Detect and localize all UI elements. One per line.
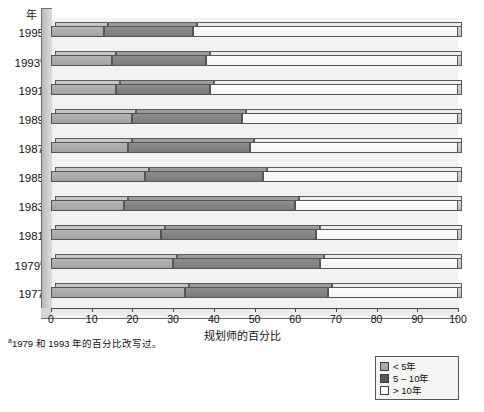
- bar-row: [51, 109, 458, 124]
- bar-row: [51, 196, 458, 211]
- x-axis-tick: [336, 308, 337, 312]
- x-axis-tick: [173, 308, 174, 312]
- bar-end-cap: [457, 229, 462, 240]
- bar-segment: [206, 55, 458, 66]
- bar-end-cap: [457, 171, 462, 182]
- x-axis-tick-label: 90: [411, 313, 423, 325]
- bar-row: [51, 22, 458, 37]
- y-axis-tick-label: 1993a: [15, 56, 45, 69]
- bar-end-cap: [457, 26, 462, 37]
- x-axis-tick-label: 40: [208, 313, 220, 325]
- bar-end-cap: [457, 258, 462, 269]
- bar-segment: [242, 113, 458, 124]
- footnote: a1979 和 1993 年的百分比改写过。: [8, 336, 162, 350]
- x-axis-tick: [92, 308, 93, 312]
- bar-segment: [210, 84, 458, 95]
- legend-item-gt10: > 10年: [380, 384, 454, 396]
- x-axis-tick-label: 60: [289, 313, 301, 325]
- x-axis-tick: [255, 308, 256, 312]
- bar-segment: [173, 258, 320, 269]
- bar-end-cap: [457, 84, 462, 95]
- bar-segment: [295, 200, 458, 211]
- x-axis-tick-label: 10: [86, 313, 98, 325]
- bar-segment: [320, 258, 458, 269]
- bar-row: [51, 138, 458, 153]
- bar-segment: [51, 55, 112, 66]
- bar-end-cap: [457, 200, 462, 211]
- bar-segment: [161, 229, 316, 240]
- x-axis-tick: [377, 308, 378, 312]
- bar-segment: [51, 26, 104, 37]
- bar-segment: [250, 142, 458, 153]
- bar-row: [51, 225, 458, 240]
- x-axis-tick-label: 30: [167, 313, 179, 325]
- bar-segment: [112, 55, 206, 66]
- bar-segment: [51, 113, 132, 124]
- y-axis-tick-label: 1979a: [15, 259, 45, 272]
- bar-segment: [193, 26, 458, 37]
- y-axis-title: 年: [26, 6, 37, 22]
- bar-segment: [51, 287, 185, 298]
- bar-segment: [128, 142, 250, 153]
- stacked-bar-chart: 年 19951993a1991198919871985198319811979a…: [0, 0, 484, 412]
- legend-swatch-icon-lt5: [380, 362, 389, 371]
- bar-segment: [104, 26, 194, 37]
- x-axis-tick-label: 50: [249, 313, 261, 325]
- bar-segment: [185, 287, 327, 298]
- bar-segment: [51, 258, 173, 269]
- plot-area: [51, 18, 458, 308]
- bar-segment: [328, 287, 458, 298]
- x-axis-tick: [295, 308, 296, 312]
- legend-swatch-icon-5to10: [380, 374, 389, 383]
- bar-row: [51, 167, 458, 182]
- x-axis-tick: [51, 308, 52, 312]
- bar-segment: [316, 229, 458, 240]
- x-axis-tick: [417, 308, 418, 312]
- x-axis-tick: [132, 308, 133, 312]
- legend-swatch-icon-gt10: [380, 386, 389, 395]
- bar-segment: [51, 84, 116, 95]
- bar-row: [51, 51, 458, 66]
- x-axis-tick-label: 0: [48, 313, 54, 325]
- bar-end-cap: [457, 287, 462, 298]
- x-axis-tick-label: 80: [371, 313, 383, 325]
- bar-segment: [51, 142, 128, 153]
- bar-segment: [124, 200, 295, 211]
- legend: < 5年 5 – 10年 > 10年: [375, 356, 459, 400]
- x-axis-tick-label: 70: [330, 313, 342, 325]
- bar-segment: [145, 171, 263, 182]
- bar-end-cap: [457, 142, 462, 153]
- bar-end-cap: [457, 113, 462, 124]
- bar-segment: [51, 229, 161, 240]
- bar-row: [51, 254, 458, 269]
- x-axis-tick: [458, 308, 459, 312]
- x-axis-tick: [214, 308, 215, 312]
- bar-segment: [51, 171, 145, 182]
- bar-segment: [51, 200, 124, 211]
- bar-end-cap: [457, 55, 462, 66]
- x-axis-tick-label: 100: [449, 313, 467, 325]
- legend-label-gt10: > 10年: [393, 383, 422, 397]
- bar-row: [51, 283, 458, 298]
- bar-segment: [263, 171, 458, 182]
- bar-row: [51, 80, 458, 95]
- footnote-text: 1979 和 1993 年的百分比改写过。: [12, 338, 162, 349]
- bar-segment: [116, 84, 210, 95]
- x-axis-tick-label: 20: [127, 313, 139, 325]
- bar-segment: [132, 113, 242, 124]
